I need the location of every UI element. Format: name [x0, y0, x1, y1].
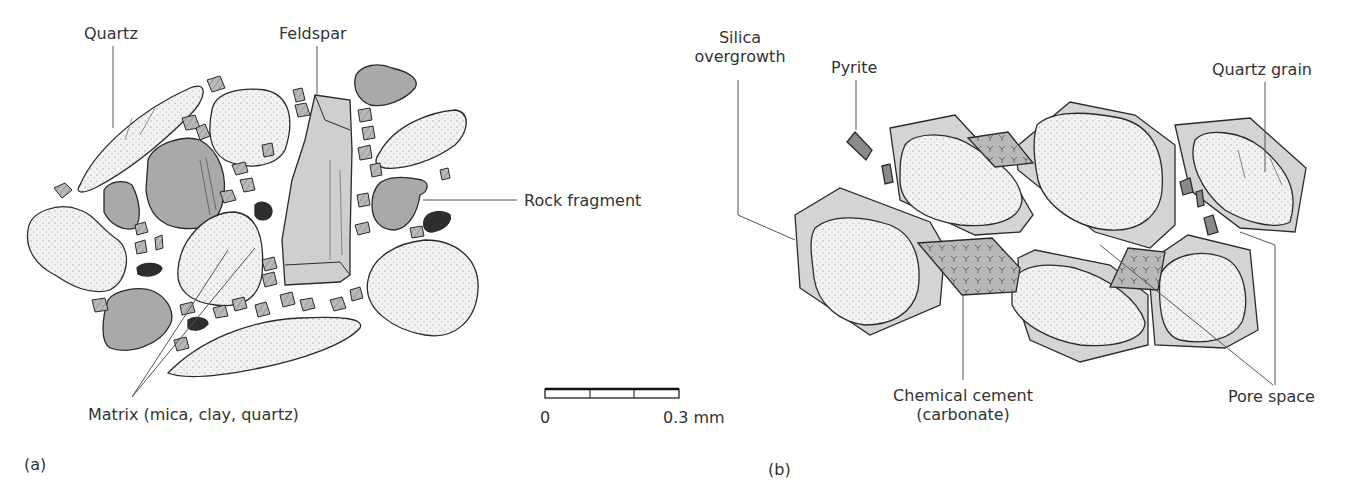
- panel-b-label: (b): [768, 460, 791, 479]
- label-pyrite: Pyrite: [831, 58, 877, 77]
- label-silica-line2: overgrowth: [690, 47, 790, 66]
- rock-fragment: [146, 138, 225, 228]
- label-quartz-grain: Quartz grain: [1212, 60, 1312, 79]
- panel-b-grains: [795, 102, 1306, 362]
- label-rock-fragment: Rock fragment: [524, 191, 641, 210]
- pyrite-fragment: [1204, 215, 1218, 235]
- label-quartz: Quartz: [84, 24, 138, 43]
- scale-start: 0: [540, 408, 550, 427]
- pyrite-fragment: [882, 164, 893, 184]
- rock-fragment: [104, 182, 139, 229]
- rock-fragment: [355, 65, 417, 106]
- pyrite-crystal: [847, 132, 872, 160]
- label-chemical-cement-line2: (carbonate): [878, 405, 1048, 424]
- dark-mineral: [255, 202, 272, 220]
- label-silica-overgrowth: Silica overgrowth: [690, 28, 790, 66]
- rock-fragment-target: [372, 177, 427, 230]
- dark-mineral: [424, 212, 451, 232]
- quartz-grain: [811, 218, 919, 325]
- quartz-grain: [367, 240, 478, 336]
- dark-mineral: [188, 317, 208, 330]
- label-pore-space: Pore space: [1228, 387, 1315, 406]
- label-chemical-cement-line1: Chemical cement: [878, 386, 1048, 405]
- carbonate-cement: [1110, 248, 1165, 290]
- pyrite-fragment: [1196, 190, 1204, 207]
- quartz-grain: [376, 110, 466, 168]
- scale-bar: [545, 389, 679, 398]
- pyrite-fragment: [1180, 178, 1193, 195]
- panel-a-label: (a): [24, 455, 46, 474]
- label-matrix: Matrix (mica, clay, quartz): [88, 405, 299, 424]
- label-silica-line1: Silica: [690, 28, 790, 47]
- label-chemical-cement: Chemical cement (carbonate): [878, 386, 1048, 424]
- rock-fragment: [103, 289, 172, 350]
- scale-end: 0.3 mm: [663, 408, 725, 427]
- label-feldspar: Feldspar: [279, 24, 347, 43]
- panel-a-grains: [27, 65, 478, 377]
- dark-mineral: [137, 264, 162, 277]
- quartz-grain: [210, 89, 290, 166]
- feldspar-crystal: [282, 95, 352, 285]
- quartz-grain: [1034, 113, 1162, 230]
